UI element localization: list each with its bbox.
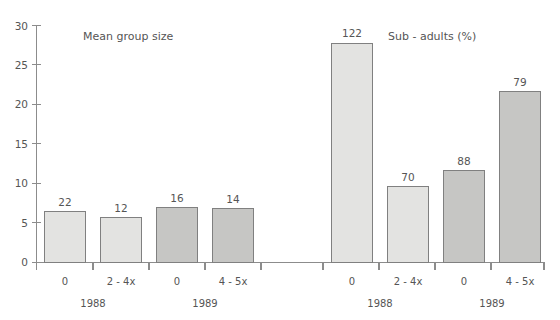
- x-category-right-2: 2 - 4x: [394, 276, 423, 287]
- bar-right-1988-2-4x: [388, 186, 429, 262]
- bar-right-1989-0: [444, 171, 485, 262]
- x-group-label-right-1988: 1988: [367, 298, 392, 309]
- x-group-label-right-1989: 1989: [479, 298, 504, 309]
- y-tick-label-10: 10: [15, 177, 28, 189]
- x-category-left-4: 4 - 5x: [219, 276, 248, 287]
- bar-chart-svg: 30 25 20 15 10 5 0 Mean group size 22 12…: [0, 0, 560, 320]
- y-tick-label-25: 25: [15, 59, 28, 71]
- bar-value-left-4: 14: [226, 193, 240, 205]
- x-category-right-1: 0: [349, 276, 355, 287]
- bar-value-right-4: 79: [513, 76, 526, 88]
- y-tick-label-5: 5: [21, 217, 28, 229]
- x-category-right-3: 0: [461, 276, 467, 287]
- bar-value-left-1: 22: [58, 196, 71, 208]
- panel-title-sub-adults: Sub - adults (%): [388, 30, 476, 43]
- bar-value-right-1: 122: [342, 27, 362, 39]
- bar-right-1988-0: [332, 43, 373, 262]
- x-group-label-left-1988: 1988: [80, 298, 105, 309]
- y-tick-label-0: 0: [21, 256, 28, 268]
- panel-title-mean-group-size: Mean group size: [83, 30, 173, 43]
- x-category-right-4: 4 - 5x: [506, 276, 535, 287]
- y-tick-label-30: 30: [15, 20, 28, 32]
- bar-left-1989-4-5x: [213, 209, 254, 263]
- bar-value-left-2: 12: [114, 202, 127, 214]
- x-category-left-2: 2 - 4x: [107, 276, 136, 287]
- bar-left-1989-0: [157, 208, 198, 262]
- x-category-left-3: 0: [174, 276, 180, 287]
- bar-value-right-3: 88: [457, 155, 470, 167]
- bar-left-1988-2-4x: [101, 217, 142, 262]
- y-tick-label-15: 15: [15, 138, 28, 150]
- bar-right-1989-4-5x: [500, 92, 541, 262]
- x-group-label-left-1989: 1989: [192, 298, 217, 309]
- bar-left-1988-0: [45, 212, 86, 263]
- x-category-left-1: 0: [62, 276, 68, 287]
- chart-container: 30 25 20 15 10 5 0 Mean group size 22 12…: [0, 0, 560, 320]
- y-tick-label-20: 20: [15, 98, 28, 110]
- bar-value-right-2: 70: [401, 171, 414, 183]
- bar-value-left-3: 16: [170, 192, 184, 204]
